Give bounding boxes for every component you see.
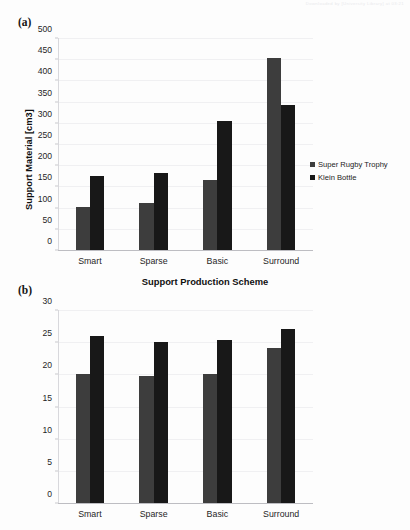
bar-sparse-series1 — [139, 376, 153, 503]
x-tick-label: Basic — [207, 256, 229, 266]
bar-surround-series2 — [281, 105, 295, 250]
chart-panel-b: (b) 051015202530 Production Time [h] Sma… — [0, 282, 410, 530]
y-tick-mark — [55, 250, 58, 251]
panel-label-b: (b) — [18, 284, 32, 296]
legend-square-icon — [310, 162, 315, 167]
y-tick-label: 300 — [38, 109, 52, 119]
bar-group-a — [58, 38, 313, 251]
legend-square-icon — [310, 175, 315, 180]
y-tick-mark — [55, 503, 58, 504]
y-tick-label: 0 — [47, 236, 52, 246]
y-tick-mark — [55, 342, 58, 343]
y-tick-mark — [55, 101, 58, 102]
x-tick-label: Smart — [78, 509, 101, 519]
x-tick-label: Sparse — [140, 256, 168, 266]
bar-smart-series2 — [90, 336, 104, 503]
y-tick-label: 200 — [38, 151, 52, 161]
y-tick-mark — [55, 470, 58, 471]
bar-smart-series1 — [76, 374, 90, 503]
y-tick-mark — [55, 374, 58, 375]
panel-label-a: (a) — [18, 16, 31, 28]
bar-basic-series2 — [217, 340, 231, 503]
y-tick-label: 100 — [38, 194, 52, 204]
bar-smart-series1 — [76, 207, 90, 250]
plot-area-a: 050100150200250300350400450500 — [58, 38, 313, 251]
y-tick-mark — [55, 228, 58, 229]
y-tick-mark — [55, 59, 58, 60]
y-tick-label: 25 — [42, 328, 52, 338]
y-tick-label: 10 — [42, 425, 52, 435]
legend-item[interactable]: Super Rugby Trophy — [310, 160, 388, 169]
bar-sparse-series2 — [154, 342, 168, 503]
bar-sparse-series1 — [139, 203, 153, 250]
y-tick-label: 500 — [38, 24, 52, 34]
bar-sparse-series2 — [154, 173, 168, 250]
x-tick-label: Smart — [78, 256, 101, 266]
y-tick-label: 350 — [38, 88, 52, 98]
y-tick-mark — [55, 186, 58, 187]
bar-surround-series1 — [267, 348, 281, 503]
y-tick-label: 250 — [38, 130, 52, 140]
bar-basic-series1 — [203, 180, 217, 250]
legend-label: Klein Bottle — [318, 173, 356, 182]
y-tick-mark — [55, 438, 58, 439]
y-axis-label-a: Support Material [cm3] — [24, 109, 34, 210]
bar-surround-series1 — [267, 58, 281, 250]
y-tick-label: 50 — [42, 215, 52, 225]
y-tick-mark — [55, 80, 58, 81]
bar-group-b — [58, 310, 313, 504]
scan-watermark: Downloaded by [University Library] at 03… — [306, 1, 404, 6]
y-tick-label: 450 — [38, 45, 52, 55]
y-tick-label: 15 — [42, 393, 52, 403]
y-tick-label: 400 — [38, 66, 52, 76]
y-tick-label: 0 — [47, 489, 52, 499]
bar-surround-series2 — [281, 329, 295, 503]
y-tick-mark — [55, 165, 58, 166]
legend-label: Super Rugby Trophy — [318, 160, 388, 169]
chart-panel-a: (a) 050100150200250300350400450500 Suppo… — [0, 14, 410, 282]
y-tick-label: 20 — [42, 360, 52, 370]
bar-basic-series1 — [203, 374, 217, 503]
bar-basic-series2 — [217, 121, 231, 250]
y-tick-mark — [55, 406, 58, 407]
y-tick-mark — [55, 310, 58, 311]
y-tick-label: 5 — [47, 457, 52, 467]
y-tick-mark — [55, 144, 58, 145]
x-tick-label: Surround — [263, 509, 299, 519]
x-tick-label: Sparse — [140, 509, 168, 519]
plot-area-b: 051015202530 — [58, 310, 313, 504]
y-tick-label: 30 — [42, 296, 52, 306]
x-tick-label: Surround — [263, 256, 299, 266]
legend-a: Super Rugby Trophy Klein Bottle — [310, 160, 388, 186]
y-tick-mark — [55, 207, 58, 208]
legend-item[interactable]: Klein Bottle — [310, 173, 388, 182]
y-tick-label: 150 — [38, 172, 52, 182]
figure-page: Downloaded by [University Library] at 03… — [0, 0, 410, 530]
x-tick-label: Basic — [207, 509, 229, 519]
y-tick-mark — [55, 38, 58, 39]
bar-smart-series2 — [90, 176, 104, 250]
y-tick-mark — [55, 122, 58, 123]
